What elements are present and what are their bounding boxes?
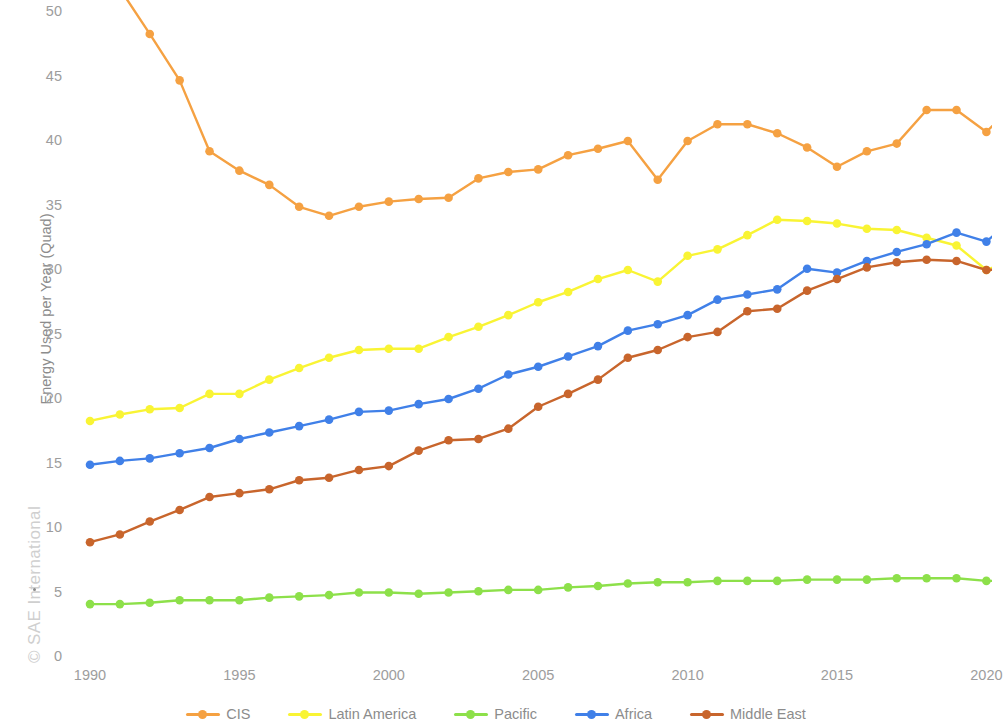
data-point (175, 506, 184, 515)
data-point (594, 275, 603, 284)
legend-label: Middle East (730, 706, 806, 722)
legend-item-pacific[interactable]: Pacific (454, 706, 537, 722)
legend-marker-icon (288, 707, 322, 721)
data-point (414, 195, 423, 204)
data-point (892, 139, 901, 148)
data-point (474, 587, 483, 596)
data-point (624, 266, 633, 275)
data-point (534, 586, 543, 595)
data-point (982, 266, 991, 275)
data-point (235, 489, 244, 498)
data-point (982, 577, 991, 586)
data-point (504, 311, 513, 320)
data-point (534, 362, 543, 371)
legend-marker-icon (186, 707, 220, 721)
data-point (773, 577, 782, 586)
data-point (653, 578, 662, 587)
data-point (474, 174, 483, 183)
legend-marker-icon (454, 707, 488, 721)
series-line (90, 0, 992, 216)
data-point (355, 202, 364, 211)
data-point (833, 275, 842, 284)
data-point (325, 353, 334, 362)
legend-item-latin-america[interactable]: Latin America (288, 706, 416, 722)
data-point (444, 588, 453, 597)
data-point (743, 307, 752, 316)
data-point (713, 328, 722, 337)
data-point (325, 415, 334, 424)
data-point (773, 285, 782, 294)
data-point (564, 288, 573, 297)
data-point (713, 245, 722, 254)
data-point (116, 600, 125, 609)
data-point (564, 390, 573, 399)
data-point (175, 76, 184, 85)
data-point (594, 144, 603, 153)
data-point (355, 588, 364, 597)
legend-item-middle-east[interactable]: Middle East (690, 706, 806, 722)
data-point (863, 575, 872, 584)
data-point (295, 364, 304, 373)
data-point (504, 586, 513, 595)
data-point (235, 166, 244, 175)
data-point (325, 473, 334, 482)
data-point (952, 106, 961, 115)
data-point (773, 129, 782, 138)
data-point (863, 147, 872, 156)
data-point (116, 410, 125, 419)
data-point (803, 286, 812, 295)
data-point (922, 255, 931, 264)
legend-label: Latin America (328, 706, 416, 722)
data-point (564, 352, 573, 361)
data-point (444, 395, 453, 404)
data-point (385, 197, 394, 206)
data-point (833, 575, 842, 584)
data-point (653, 320, 662, 329)
data-point (474, 435, 483, 444)
series-line (90, 220, 992, 421)
data-point (713, 577, 722, 586)
data-point (982, 237, 991, 246)
data-point (265, 428, 274, 437)
legend-item-africa[interactable]: Africa (575, 706, 652, 722)
series-line (90, 216, 992, 465)
data-point (653, 175, 662, 184)
data-point (594, 582, 603, 591)
data-point (414, 344, 423, 353)
data-point (534, 165, 543, 174)
data-point (444, 436, 453, 445)
data-point (474, 322, 483, 331)
data-point (803, 217, 812, 226)
data-point (713, 295, 722, 304)
data-point (235, 596, 244, 605)
legend-label: Africa (615, 706, 652, 722)
data-point (952, 574, 961, 583)
data-point (145, 599, 154, 608)
data-point (295, 422, 304, 431)
data-point (145, 454, 154, 463)
data-point (145, 405, 154, 414)
data-point (683, 137, 692, 146)
data-point (982, 128, 991, 137)
data-point (952, 241, 961, 250)
legend-item-cis[interactable]: CIS (186, 706, 250, 722)
legend-marker-icon (690, 707, 724, 721)
data-point (892, 248, 901, 257)
data-point (743, 120, 752, 129)
data-point (922, 106, 931, 115)
data-point (355, 346, 364, 355)
data-point (504, 424, 513, 433)
data-point (624, 137, 633, 146)
data-point (444, 193, 453, 202)
data-point (325, 591, 334, 600)
data-point (952, 257, 961, 266)
data-point (265, 485, 274, 494)
data-point (504, 168, 513, 177)
data-point (86, 417, 95, 426)
data-point (803, 143, 812, 152)
legend-label: CIS (226, 706, 250, 722)
data-point (653, 277, 662, 286)
data-point (86, 600, 95, 609)
data-point (863, 224, 872, 233)
